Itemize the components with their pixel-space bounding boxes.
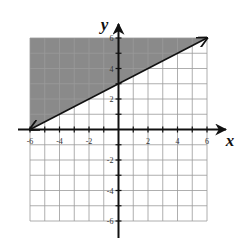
y-tick-label: 4 <box>110 65 114 74</box>
x-tick-label: 6 <box>205 137 209 146</box>
x-tick-label: -4 <box>56 137 63 146</box>
y-tick-label: -4 <box>107 187 114 196</box>
x-tick-label: -6 <box>27 137 34 146</box>
x-tick-label: 2 <box>146 137 150 146</box>
inequality-graph: -6-4-2246642-2-4-6xy <box>0 0 244 252</box>
y-axis-label: y <box>99 15 109 34</box>
y-tick-label: -6 <box>107 217 114 226</box>
y-tick-label: 2 <box>110 95 114 104</box>
x-tick-label: -2 <box>86 137 93 146</box>
y-tick-label: -2 <box>107 156 114 165</box>
x-tick-label: 4 <box>176 137 180 146</box>
x-axis-label: x <box>225 131 235 150</box>
y-tick-label: 6 <box>110 34 114 43</box>
